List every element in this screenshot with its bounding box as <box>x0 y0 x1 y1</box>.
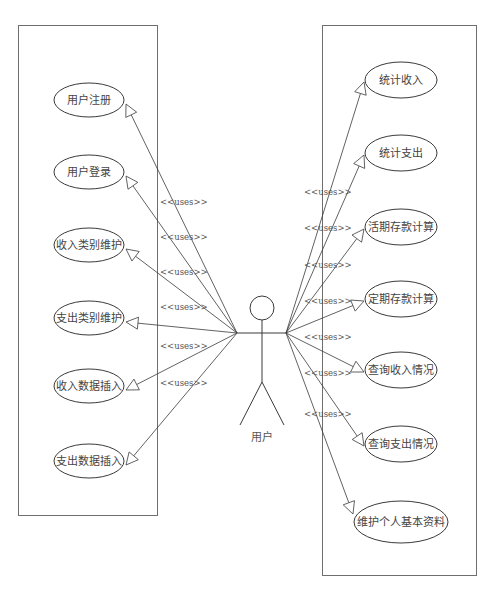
use-case-label: 查询收入情况 <box>368 363 434 377</box>
left-use-case-2[interactable]: 收入类别维护 <box>54 228 124 262</box>
use-case-label: 支出类别维护 <box>56 311 122 325</box>
actor-head-icon <box>250 296 274 320</box>
hollow-triangle-arrow-icon <box>355 82 366 95</box>
right-use-case-5[interactable]: 查询支出情况 <box>365 426 437 462</box>
left-use-case-5[interactable]: 支出数据插入 <box>54 444 124 478</box>
uses-stereotype-label: <<uses>> <box>304 409 352 419</box>
hollow-triangle-arrow-icon <box>126 452 138 465</box>
uses-stereotype-label: <<uses>> <box>304 187 352 197</box>
use-case-label: 统计支出 <box>379 146 423 160</box>
hollow-triangle-arrow-icon <box>351 300 364 311</box>
left-association-0 <box>126 104 237 333</box>
hollow-triangle-arrow-icon <box>126 249 139 261</box>
right-use-case-2[interactable]: 活期存款计算 <box>365 209 437 245</box>
right-use-case-4[interactable]: 查询收入情况 <box>365 352 437 388</box>
use-case-label: 收入类别维护 <box>56 238 122 252</box>
use-case-label: 支出数据插入 <box>56 454 122 468</box>
diagram-canvas: 用户注册用户登录收入类别维护支出类别维护收入数据插入支出数据插入统计收入统计支出… <box>0 0 492 590</box>
uses-stereotype-label: <<uses>> <box>304 332 352 342</box>
use-case-label: 定期存款计算 <box>368 292 434 306</box>
hollow-triangle-arrow-icon <box>343 501 354 514</box>
left-association-3 <box>126 317 237 333</box>
uses-stereotype-label: <<uses>> <box>304 368 352 378</box>
actor-right-leg <box>262 382 284 425</box>
actor-user[interactable]: 用户 <box>237 296 286 444</box>
uses-stereotype-label: <<uses>> <box>160 267 208 277</box>
uses-stereotype-label: <<uses>> <box>304 223 352 233</box>
use-case-label: 用户登录 <box>67 165 111 179</box>
hollow-triangle-arrow-icon <box>352 433 364 446</box>
uses-stereotype-label: <<uses>> <box>304 260 352 270</box>
use-case-label: 用户注册 <box>67 93 111 107</box>
hollow-triangle-arrow-icon <box>126 317 139 329</box>
use-case-diagram: 用户注册用户登录收入类别维护支出类别维护收入数据插入支出数据插入统计收入统计支出… <box>0 0 492 590</box>
right-association-6 <box>286 333 354 514</box>
right-association-5 <box>286 333 364 446</box>
left-use-case-1[interactable]: 用户登录 <box>54 155 124 189</box>
hollow-triangle-arrow-icon <box>354 155 365 168</box>
uses-stereotype-label: <<uses>> <box>160 232 208 242</box>
actor-label: 用户 <box>251 430 273 444</box>
left-association-2 <box>126 249 237 333</box>
use-case-label: 收入数据插入 <box>56 379 122 393</box>
hollow-triangle-arrow-icon <box>126 176 138 189</box>
left-use-case-0[interactable]: 用户注册 <box>54 83 124 117</box>
right-use-case-6[interactable]: 维护个人基本资料 <box>354 501 448 543</box>
use-case-label: 查询支出情况 <box>368 437 434 451</box>
use-case-label: 维护个人基本资料 <box>357 515 445 529</box>
right-use-case-3[interactable]: 定期存款计算 <box>365 281 437 317</box>
actor-left-leg <box>240 382 262 425</box>
uses-stereotype-label: <<uses>> <box>160 378 208 388</box>
left-use-case-4[interactable]: 收入数据插入 <box>54 369 124 403</box>
use-case-label: 活期存款计算 <box>368 220 434 234</box>
uses-stereotype-label: <<uses>> <box>160 302 208 312</box>
uses-stereotype-label: <<uses>> <box>160 341 208 351</box>
uses-stereotype-label: <<uses>> <box>304 296 352 306</box>
right-use-case-1[interactable]: 统计支出 <box>365 135 437 171</box>
right-use-case-0[interactable]: 统计收入 <box>365 62 437 98</box>
left-association-5 <box>126 333 237 465</box>
use-case-label: 统计收入 <box>379 73 423 87</box>
left-use-case-3[interactable]: 支出类别维护 <box>54 301 124 335</box>
uses-stereotype-label: <<uses>> <box>160 197 208 207</box>
hollow-triangle-arrow-icon <box>352 229 364 242</box>
